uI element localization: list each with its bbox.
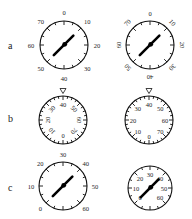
dial-label: 20	[37, 160, 44, 167]
dial-label: 60	[28, 42, 35, 49]
tick-mark	[164, 59, 167, 62]
dial-label: 50	[157, 105, 164, 112]
dial-label: 60	[115, 42, 122, 49]
tick-mark	[47, 59, 50, 62]
tick-mark	[43, 107, 45, 108]
tick-mark	[42, 36, 44, 37]
tick-mark	[54, 206, 55, 208]
tick-mark	[83, 111, 85, 112]
tick-mark	[50, 138, 51, 140]
needle-hub	[148, 42, 153, 47]
row-label-a: a	[8, 41, 12, 51]
tick-mark	[140, 140, 141, 142]
tick-mark	[136, 100, 137, 102]
dial-label: 10	[133, 185, 140, 192]
dial-label: 10	[84, 18, 91, 25]
tick-mark	[47, 28, 50, 31]
tick-mark	[133, 59, 136, 62]
tick-mark	[78, 59, 81, 62]
dial-label: 10	[168, 18, 178, 28]
tick-mark	[130, 195, 132, 196]
tick-mark	[142, 168, 143, 170]
dial-label: 60	[76, 117, 83, 124]
dial-label: 20	[137, 175, 144, 182]
dial-label: 40	[146, 101, 153, 108]
tick-mark	[77, 200, 80, 203]
index-triangle-icon	[60, 89, 66, 94]
tick-mark	[170, 36, 172, 37]
dial-label: 20	[44, 117, 51, 124]
dial-label: 40	[147, 74, 154, 81]
tick-mark	[158, 65, 159, 67]
tick-mark	[170, 53, 172, 54]
tick-mark	[71, 206, 72, 208]
tick-mark	[133, 28, 136, 31]
dial-label: 0	[147, 133, 150, 140]
tick-mark	[77, 169, 80, 172]
tick-mark	[164, 28, 167, 31]
tick-mark	[46, 134, 49, 137]
tick-mark	[167, 132, 169, 133]
tick-mark	[81, 132, 83, 133]
tick-mark	[75, 138, 76, 140]
tick-mark	[75, 100, 76, 102]
needle-hub	[62, 42, 67, 47]
dial-label: 50	[161, 185, 168, 192]
dial-b-right: 405060700102030	[125, 89, 173, 145]
tick-mark	[43, 132, 45, 133]
tick-mark	[81, 107, 83, 108]
tick-mark	[72, 65, 73, 67]
dial-label: 50	[123, 63, 133, 73]
tick-mark	[128, 36, 130, 37]
dial-b-left: 405060700102030	[39, 89, 87, 145]
tick-mark	[169, 128, 171, 129]
dial-a-left: 010203040506070	[28, 9, 101, 82]
dial-label: 30	[134, 105, 141, 112]
tick-mark	[55, 23, 56, 25]
dial-label: 0	[39, 205, 42, 212]
tick-mark	[54, 98, 55, 100]
tick-mark	[46, 169, 49, 172]
tick-mark	[157, 168, 158, 170]
row-label-b: b	[8, 114, 13, 124]
tick-mark	[127, 111, 129, 112]
tick-mark	[83, 128, 85, 129]
row-label-c: c	[8, 183, 12, 193]
dial-label: 30	[147, 171, 154, 178]
tick-mark	[140, 98, 141, 100]
tick-mark	[129, 132, 131, 133]
tick-mark	[54, 140, 55, 142]
needle-hub	[148, 185, 153, 190]
tick-mark	[134, 201, 137, 204]
tick-mark	[83, 194, 85, 195]
tick-mark	[157, 98, 158, 100]
tick-mark	[157, 140, 158, 142]
tick-mark	[46, 103, 49, 106]
dial-c-left: 0102030405060	[28, 151, 99, 213]
dial-label: 40	[60, 101, 67, 108]
dial-label: 50	[92, 183, 99, 190]
tick-mark	[41, 128, 43, 129]
tick-mark	[136, 138, 137, 140]
tick-mark	[129, 107, 131, 108]
tick-mark	[77, 103, 80, 106]
dial-c-right: 0102030405060	[128, 166, 172, 210]
dial-label: 0	[61, 133, 64, 140]
dial-label: 50	[37, 65, 44, 72]
dial-label: 60	[162, 117, 169, 124]
tick-mark	[72, 23, 73, 25]
tick-mark	[128, 53, 130, 54]
dial-label: 10	[134, 128, 141, 135]
dial-figure: 0102030405060700102030405060704050607001…	[0, 0, 192, 219]
dial-label: 20	[130, 117, 137, 124]
tick-mark	[78, 28, 81, 31]
tick-mark	[84, 36, 86, 37]
tick-mark	[141, 23, 142, 25]
needle-hub	[61, 183, 66, 188]
tick-mark	[71, 98, 72, 100]
tick-mark	[41, 177, 43, 178]
dial-label: 70	[37, 18, 44, 25]
tick-mark	[168, 195, 170, 196]
tick-mark	[71, 140, 72, 142]
tick-mark	[167, 107, 169, 108]
